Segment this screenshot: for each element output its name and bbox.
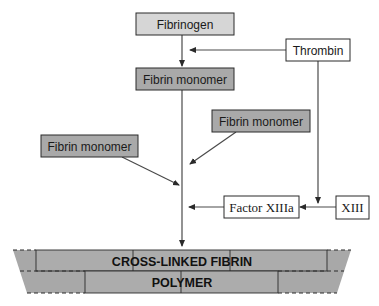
node-xiii-label: XIII [341,200,363,215]
polymer-label-line1: CROSS-LINKED FIBRIN [112,255,252,269]
node-fibrin-monomer-right: Fibrin monomer [212,110,310,132]
node-fibrinogen-label: Fibrinogen [157,18,214,32]
node-xiii: XIII [336,196,369,219]
arrow-right-monomer-to-trunk [190,132,236,164]
node-fibrinogen: Fibrinogen [136,13,234,35]
node-factor-xiiia: Factor XIIIa [224,196,299,218]
node-fibrin-monomer-left-label: Fibrin monomer [47,140,131,154]
node-thrombin-label: Thrombin [293,44,344,58]
polymer-label-line2: POLYMER [152,276,213,290]
node-factor-xiiia-label: Factor XIIIa [229,200,294,215]
node-fibrin-monomer-center: Fibrin monomer [136,68,234,90]
cross-linked-fibrin-polymer: CROSS-LINKED FIBRIN POLYMER [13,250,351,293]
node-fibrin-monomer-center-label: Fibrin monomer [143,73,227,87]
node-fibrin-monomer-right-label: Fibrin monomer [219,115,303,129]
node-fibrin-monomer-left: Fibrin monomer [41,135,138,157]
node-thrombin: Thrombin [286,39,350,61]
arrow-left-monomer-to-trunk [122,157,179,185]
fibrin-pathway-diagram: Fibrinogen Thrombin Fibrin monomer Fibri… [0,0,379,306]
